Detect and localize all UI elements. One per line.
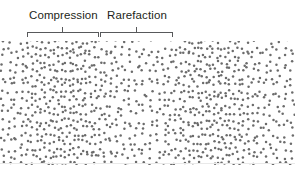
sound-wave-density-figure: Compression Rarefaction (0, 0, 295, 170)
particle-density-field (0, 41, 295, 165)
rarefaction-bracket (100, 27, 172, 37)
particle-dots-canvas (0, 41, 295, 165)
compression-bracket (27, 27, 98, 37)
field-bottom-edge (0, 163, 295, 164)
bracket-annotations (0, 0, 295, 44)
bracket-group (27, 27, 172, 37)
